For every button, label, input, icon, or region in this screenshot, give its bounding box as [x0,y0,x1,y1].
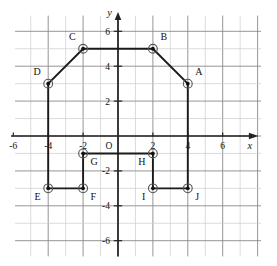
y-axis-name: y [106,7,112,18]
plot-background [0,0,277,266]
point-label: J [195,191,199,202]
x-tick-label: 6 [220,141,225,151]
point-label: G [91,156,98,167]
point-dot [186,186,190,190]
point-dot [186,82,190,86]
point-label: E [35,191,41,202]
point-dot [46,82,50,86]
point-dot [151,152,155,156]
point-label: A [195,66,203,77]
origin-label: O [106,141,113,151]
point-label: H [138,156,145,167]
point-label: I [142,191,145,202]
point-dot [151,186,155,190]
x-axis-name: x [246,140,252,151]
point-label: F [91,191,97,202]
point-label: D [33,66,40,77]
y-tick-label: -6 [102,236,110,246]
point-label: B [160,31,167,42]
point-dot [46,186,50,190]
y-tick-label: 2 [105,97,110,107]
point-dot [151,47,155,51]
coordinate-plane-figure: -6-4-2246642-2-4-6OxyABCDEFGHIJ [0,0,277,266]
x-tick-label: -6 [9,141,17,151]
point-dot [81,47,85,51]
coordinate-plot: -6-4-2246642-2-4-6OxyABCDEFGHIJ [0,0,277,266]
point-dot [81,152,85,156]
point-dot [81,186,85,190]
y-tick-label: -2 [102,166,110,176]
y-tick-label: -4 [102,201,110,211]
point-label: C [69,31,76,42]
y-tick-label: 4 [105,62,110,72]
y-tick-label: 6 [105,27,110,37]
